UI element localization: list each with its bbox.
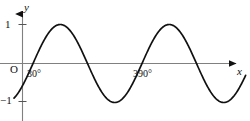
- sine-curve-figure: y x 1 −1 O 30° 390°: [0, 0, 250, 121]
- y-tick-label-1: 1: [5, 19, 11, 30]
- origin-label: O: [10, 64, 18, 75]
- plot-canvas: [0, 0, 250, 121]
- x-tick-label-30: 30°: [27, 69, 41, 79]
- y-tick-label-neg-1: −1: [0, 95, 12, 106]
- x-axis-label: x: [237, 66, 242, 77]
- x-tick-label-390: 390°: [133, 69, 152, 79]
- y-axis-label: y: [24, 2, 29, 13]
